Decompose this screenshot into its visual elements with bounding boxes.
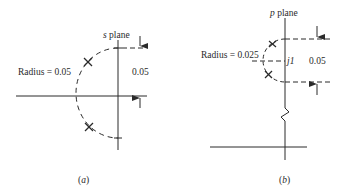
plane-label-a: s plane — [103, 30, 130, 40]
pole-x-icon — [269, 41, 276, 47]
dimension-label-b: 0.05 — [309, 56, 326, 66]
pole-x-icon — [85, 123, 93, 131]
radius-label-b: Radius = 0.025 — [201, 50, 259, 60]
caption-b: (b) — [279, 175, 290, 186]
pole-x-icon — [84, 58, 92, 66]
panel-a-s-plane: s plane Radius = 0.05 0.05 (a) — [16, 30, 149, 186]
dimension-label-a: 0.05 — [132, 67, 149, 77]
caption-a: (a) — [78, 175, 89, 186]
pole-diagram: s plane Radius = 0.05 0.05 (a) — [0, 0, 345, 192]
axis-point-label-b: j1 — [285, 56, 294, 66]
radius-semicircle-a — [76, 48, 118, 138]
pole-x-icon — [265, 71, 272, 78]
axis-break-icon — [281, 108, 289, 121]
panel-b-p-plane: p plane Radius = 0.025 j1 0.05 (b) — [201, 8, 331, 186]
radius-label-a: Radius = 0.05 — [18, 67, 71, 77]
plane-label-b: p plane — [269, 8, 298, 18]
